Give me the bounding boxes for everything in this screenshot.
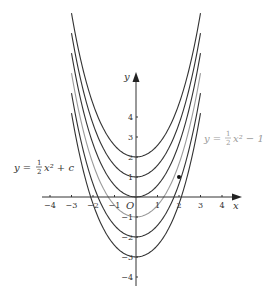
origin-label: O (126, 200, 134, 211)
y-tick-label: −3 (121, 253, 133, 262)
svg-text:y =: y = (203, 133, 221, 144)
x-tick-label: 3 (198, 201, 203, 210)
svg-text:2: 2 (37, 168, 41, 176)
y-tick-label: −4 (121, 273, 133, 282)
y-axis-arrow-icon (133, 72, 140, 82)
y-tick-label: 1 (128, 173, 133, 182)
y-tick-label: 2 (128, 153, 133, 162)
highlight-point (177, 175, 181, 179)
x-axis-label: x (233, 200, 239, 211)
x-tick-label: −4 (44, 201, 56, 210)
y-tick-label: −2 (121, 233, 133, 242)
x-tick-label: 2 (176, 201, 181, 210)
family-equation-label: y = 1 2 x² + c (13, 159, 74, 176)
y-axis (133, 72, 140, 286)
x-tick-label: 1 (155, 201, 160, 210)
curve-family-diagram: −4−3−2−112344321−1−2−3−4 x y O y = 1 2 x… (0, 0, 267, 301)
svg-text:x² + c: x² + c (44, 162, 74, 173)
x-tick-label: −3 (66, 201, 78, 210)
svg-text:1: 1 (226, 130, 230, 138)
y-tick-label: 3 (128, 133, 133, 142)
highlight-equation-label: y = 1 2 x² − 1 (203, 130, 264, 147)
svg-text:1: 1 (37, 159, 41, 167)
svg-text:y =: y = (13, 162, 31, 173)
x-tick-label: −2 (87, 201, 99, 210)
svg-text:2: 2 (226, 139, 230, 147)
x-tick-label: 4 (219, 201, 224, 210)
svg-text:x² − 1: x² − 1 (233, 133, 264, 144)
y-tick-label: −1 (121, 213, 133, 222)
x-tick-label: −1 (109, 201, 121, 210)
y-tick-label: 4 (128, 113, 133, 122)
y-axis-label: y (123, 71, 130, 82)
